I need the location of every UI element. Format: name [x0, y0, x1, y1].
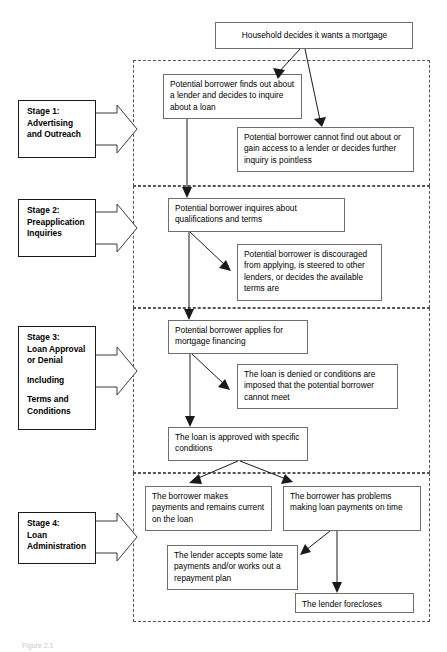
- stage-1-pointer-arrow: [96, 105, 137, 153]
- stage-2-pointer-arrow: [96, 204, 137, 252]
- stage-2-proceed-box: Potential borrower inquires about qualif…: [168, 198, 345, 232]
- start-box: Household decides it wants a mortgage: [215, 22, 413, 49]
- stage-2-label: Stage 2: Preapplication Inquiries: [18, 199, 96, 257]
- stage-3-apply-box: Potential borrower applies for mortgage …: [168, 320, 308, 354]
- stage-4-label-line-2: Loan: [27, 530, 47, 540]
- stage-2-proceed-text: Potential borrower inquires about qualif…: [175, 203, 297, 224]
- stage-3-apply-text: Potential borrower applies for mortgage …: [175, 325, 283, 346]
- stage-3-label-spacer-2: [27, 386, 89, 394]
- stage-2-label-line-1: Stage 2:: [27, 205, 60, 215]
- figure-caption: Figure 2.1: [22, 641, 54, 650]
- stage-4-current-text: The borrower makes payments and remains …: [152, 491, 264, 524]
- stage-1-label-line-2: Advertising: [27, 118, 73, 128]
- stage-4-label: Stage 4: Loan Administration: [18, 512, 96, 564]
- stage-3-approved-box: The loan is approved with specific condi…: [168, 427, 308, 461]
- stage-4-pointer-arrow: [96, 513, 137, 561]
- stage-1-label-line-3: and Outreach: [27, 129, 81, 139]
- stage-4-current-box: The borrower makes payments and remains …: [145, 486, 272, 531]
- stage-1-exit-box: Potential borrower cannot find out about…: [237, 127, 414, 172]
- flowchart-diagram: Household decides it wants a mortgage St…: [0, 0, 447, 652]
- stage-3-label-line-1: Stage 3:: [27, 332, 60, 342]
- stage-2-exit-text: Potential borrower is discouraged from a…: [244, 249, 367, 293]
- stage-2-exit-box: Potential borrower is discouraged from a…: [237, 244, 382, 301]
- start-box-label: Household decides it wants a mortgage: [242, 30, 387, 40]
- stage-2-label-line-2: Preapplication: [27, 217, 85, 227]
- stage-4-label-line-1: Stage 4:: [27, 518, 60, 528]
- stage-1-label: Stage 1: Advertising and Outreach: [18, 100, 96, 158]
- stage-1-proceed-box: Potential borrower finds out about a len…: [163, 74, 302, 119]
- stage-1-label-line-1: Stage 1:: [27, 106, 60, 116]
- stage-3-denied-text: The loan is denied or conditions are imp…: [244, 369, 375, 402]
- stage-3-approved-text: The loan is approved with specific condi…: [175, 432, 300, 453]
- stage-4-foreclose-text: The lender forecloses: [302, 599, 382, 609]
- stage-3-label-line-7: Terms and: [27, 394, 69, 404]
- stage-3-denied-box: The loan is denied or conditions are imp…: [237, 364, 398, 409]
- stage-1-proceed-text: Potential borrower finds out about a len…: [170, 79, 294, 112]
- figure-caption-text: Figure 2.1: [22, 642, 54, 649]
- stage-4-problems-text: The borrower has problems making loan pa…: [290, 491, 403, 512]
- stage-4-workout-box: The lender accepts some late payments an…: [167, 545, 298, 590]
- stage-1-exit-text: Potential borrower cannot find out about…: [244, 132, 401, 165]
- stage-3-label-spacer-1: [27, 367, 89, 375]
- stage-3-label-line-2: Loan Approval: [27, 344, 85, 354]
- stage-4-problems-box: The borrower has problems making loan pa…: [283, 486, 421, 531]
- stage-3-label-line-3: or Denial: [27, 355, 63, 365]
- stage-3-label-line-5: Including: [27, 375, 64, 385]
- stage-3-label: Stage 3: Loan Approval or Denial Includi…: [18, 326, 96, 430]
- stage-4-label-line-3: Administration: [27, 541, 86, 551]
- stage-3-pointer-arrow: [96, 347, 137, 395]
- stage-4-foreclose-box: The lender forecloses: [295, 593, 414, 613]
- stage-2-label-line-3: Inquiries: [27, 228, 62, 238]
- stage-4-workout-text: The lender accepts some late payments an…: [174, 550, 283, 583]
- stage-3-label-line-8: Conditions: [27, 406, 71, 416]
